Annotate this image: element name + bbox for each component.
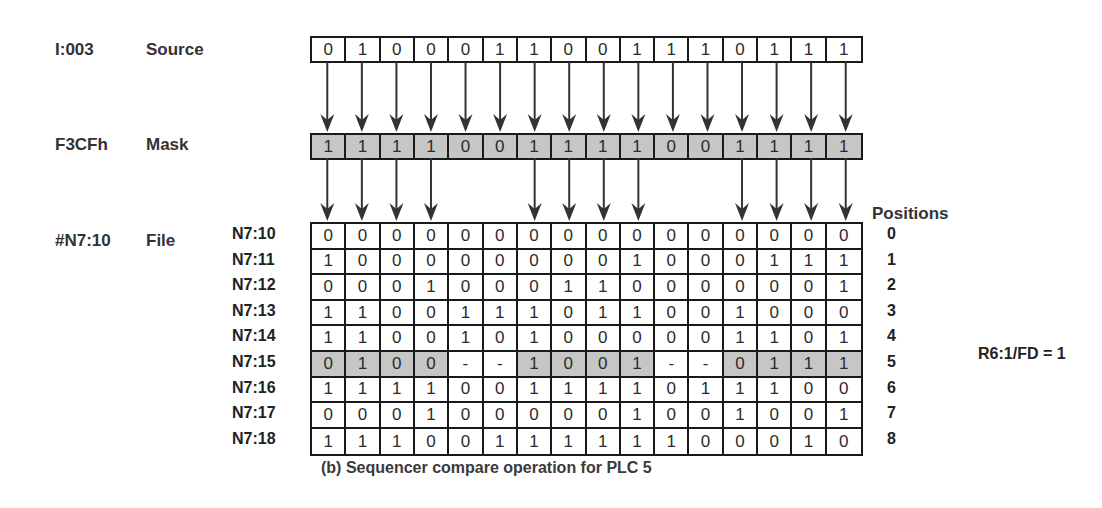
arrow-layer	[0, 0, 1102, 508]
figure-caption: (b) Sequencer compare operation for PLC …	[321, 459, 652, 477]
